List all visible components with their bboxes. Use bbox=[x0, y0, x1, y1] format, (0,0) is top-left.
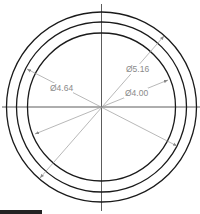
dimension-label: Ø4.00 bbox=[125, 88, 148, 98]
dimension-label: Ø5.16 bbox=[126, 64, 149, 74]
drawing-canvas: Ø5.16Ø4.64Ø4.00 bbox=[0, 0, 200, 214]
dimension-label: Ø4.64 bbox=[50, 83, 73, 93]
dimension-line bbox=[27, 69, 177, 146]
bottom-black-bar bbox=[0, 210, 42, 214]
